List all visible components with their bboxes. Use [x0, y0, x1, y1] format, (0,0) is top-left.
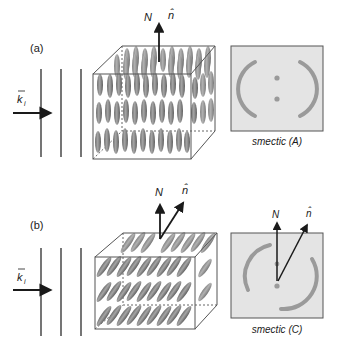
- wave-vector-arrow: k i: [13, 91, 50, 113]
- wave-vector-arrow: k i: [13, 269, 50, 290]
- director-label: n̂: [182, 183, 188, 196]
- pattern-director-label: n̂: [306, 206, 312, 219]
- molecules-smectic-a: [95, 46, 214, 154]
- wavefront-lines: [41, 248, 81, 336]
- smectic-diagram: (a) k i: [0, 0, 337, 346]
- svg-text:i: i: [24, 278, 26, 285]
- diffraction-pattern-a: smectic (A): [231, 46, 323, 147]
- panel-b: (b) k i: [13, 183, 323, 336]
- director-label: n̂: [168, 8, 174, 21]
- pattern-caption-a: smectic (A): [252, 136, 302, 147]
- panel-a-label: (a): [30, 42, 43, 54]
- wave-vector-label: k: [17, 93, 23, 105]
- panel-b-label: (b): [30, 219, 43, 231]
- layer-normal-and-director-arrows: N n̂: [155, 183, 188, 239]
- normal-label: N: [144, 11, 152, 23]
- diffraction-pattern-c: N n̂ smectic (C): [231, 206, 323, 335]
- svg-text:i: i: [24, 100, 26, 107]
- panel-a: (a) k i: [13, 8, 323, 159]
- pattern-normal-label: N: [272, 209, 280, 220]
- normal-label: N: [155, 186, 163, 198]
- molecules-smectic-c: [95, 230, 218, 327]
- wave-vector-label: k: [17, 271, 23, 283]
- pattern-caption-c: smectic (C): [252, 324, 303, 335]
